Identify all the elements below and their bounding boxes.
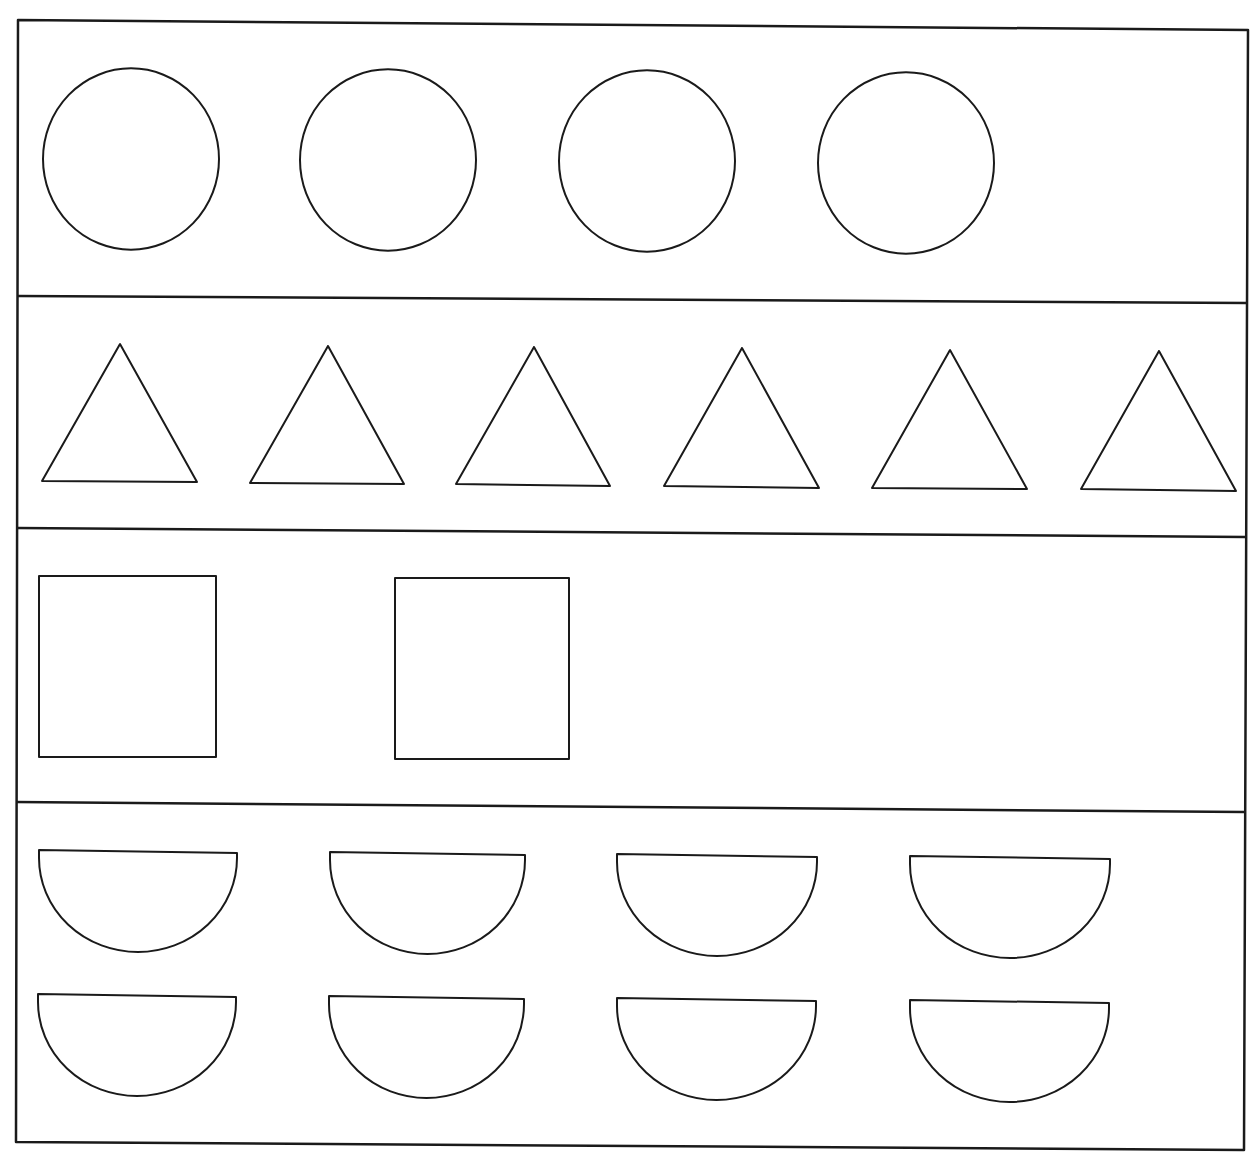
triangle-6: [1081, 351, 1236, 491]
semicircles-row: [38, 850, 1110, 1102]
semicircle-3: [617, 854, 817, 956]
semicircle-7: [617, 998, 816, 1100]
circle-2: [300, 69, 476, 250]
rectangle-2: [395, 578, 569, 759]
row-divider-3: [16, 802, 1244, 812]
squares-row: [39, 576, 569, 759]
circle-3: [559, 70, 735, 251]
semicircle-5: [38, 994, 236, 1096]
row-divider-2: [17, 528, 1246, 537]
semicircle-4: [910, 856, 1110, 958]
outer-border: [16, 20, 1248, 1150]
row-dividers: [16, 296, 1248, 812]
triangles-row: [42, 344, 1236, 491]
semicircle-1: [39, 850, 237, 952]
triangle-2: [250, 346, 404, 484]
semicircle-6: [329, 996, 524, 1098]
circle-1: [43, 68, 219, 249]
circles-row: [43, 68, 994, 253]
circle-4: [818, 72, 994, 253]
rectangle-1: [39, 576, 216, 757]
semicircle-8: [910, 1000, 1109, 1102]
row-divider-1: [18, 296, 1248, 303]
shapes-worksheet: [0, 0, 1257, 1159]
triangle-3: [456, 347, 610, 486]
triangle-1: [42, 344, 197, 482]
shape-rows: [38, 68, 1236, 1102]
worksheet-frame: [16, 20, 1248, 1150]
semicircle-2: [330, 852, 525, 954]
triangle-4: [664, 348, 819, 488]
triangle-5: [872, 350, 1027, 489]
